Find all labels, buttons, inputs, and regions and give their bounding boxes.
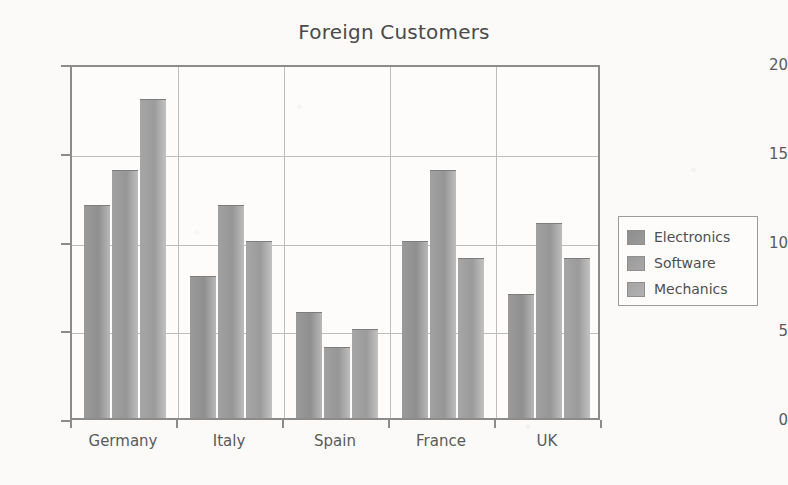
bar-france-electronics[interactable] [402,241,428,419]
y-axis-tick-mark [61,154,70,156]
bar-face [296,312,322,419]
legend-label: Electronics [654,229,730,245]
chart-canvas: Foreign Customers 05101520 GermanyItalyS… [0,0,788,485]
legend-label: Mechanics [654,281,728,297]
bar-spain-software[interactable] [324,347,350,418]
legend-label: Software [654,255,716,271]
y-axis-tick-label: 15 [752,145,788,163]
chart-legend: ElectronicsSoftwareMechanics [618,216,758,306]
x-axis-tick-mark [600,420,602,428]
bar-spain-mechanics[interactable] [352,329,378,418]
bar-uk-mechanics[interactable] [564,258,590,418]
bar-face [458,258,484,418]
bar-germany-software[interactable] [112,170,138,419]
gridline-vertical [496,67,497,418]
legend-swatch-icon [627,230,645,245]
x-axis-label-uk: UK [494,432,600,450]
bar-france-mechanics[interactable] [458,258,484,418]
bar-face [564,258,590,418]
legend-swatch-icon [627,282,645,297]
x-axis-label-spain: Spain [282,432,388,450]
bar-uk-software[interactable] [536,223,562,418]
bar-face [112,170,138,419]
bar-uk-electronics[interactable] [508,294,534,418]
y-axis-tick-label: 20 [752,56,788,74]
bar-face [218,205,244,418]
plot-area [70,65,600,420]
gridline-vertical [178,67,179,418]
legend-item-electronics[interactable]: Electronics [627,226,730,248]
bar-face [140,99,166,419]
bar-face [508,294,534,418]
bar-face [536,223,562,418]
bar-face [402,241,428,419]
bar-face [190,276,216,418]
bar-italy-software[interactable] [218,205,244,418]
x-axis-tick-mark [282,420,284,428]
bar-face [324,347,350,418]
bar-face [246,241,272,419]
x-axis-label-italy: Italy [176,432,282,450]
bar-spain-electronics[interactable] [296,312,322,419]
bar-germany-electronics[interactable] [84,205,110,418]
y-axis-tick-mark [61,65,70,67]
gridline-vertical [284,67,285,418]
gridline-vertical [390,67,391,418]
y-axis-tick-mark [61,420,70,422]
x-axis-tick-mark [176,420,178,428]
x-axis-label-france: France [388,432,494,450]
bar-face [84,205,110,418]
bar-italy-electronics[interactable] [190,276,216,418]
bar-face [352,329,378,418]
x-axis-tick-mark [70,420,72,428]
x-axis-label-germany: Germany [70,432,176,450]
bar-germany-mechanics[interactable] [140,99,166,419]
bar-france-software[interactable] [430,170,456,419]
chart-title: Foreign Customers [0,20,788,44]
legend-swatch-icon [627,256,645,271]
legend-item-software[interactable]: Software [627,252,716,274]
x-axis-tick-mark [388,420,390,428]
y-axis-tick-mark [61,243,70,245]
y-axis-tick-label: 5 [752,322,788,340]
x-axis-tick-mark [494,420,496,428]
legend-item-mechanics[interactable]: Mechanics [627,278,728,300]
bar-italy-mechanics[interactable] [246,241,272,419]
y-axis-tick-mark [61,331,70,333]
y-axis-tick-label: 0 [752,411,788,429]
bar-face [430,170,456,419]
